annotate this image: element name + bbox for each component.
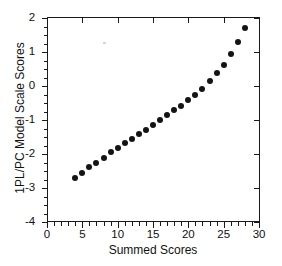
x-tick-minor [252,222,253,226]
x-tick-minor [75,222,76,226]
y-tick-minor [44,78,48,79]
y-tick-minor [44,27,48,28]
y-tick-right [254,52,259,53]
y-tick-major [42,222,48,223]
y-tick-minor [44,163,48,164]
y-tick-right [254,120,259,121]
x-tick-top [82,18,83,23]
x-tick-minor [146,222,147,226]
scan-artifact-speck [103,42,106,44]
y-tick-minor [44,103,48,104]
data-point [136,131,142,137]
data-point [108,149,114,155]
x-tick-minor [89,222,90,226]
y-tick-minor [44,35,48,36]
data-point [214,70,220,76]
y-tick-minor [44,171,48,172]
x-tick-minor [202,222,203,226]
y-tick-right [254,188,259,189]
x-tick-top [118,18,119,23]
x-tick-minor [174,222,175,226]
x-tick-label: 0 [27,228,67,241]
y-tick-right [254,154,259,155]
y-tick-minor [44,112,48,113]
y-tick-major [42,154,48,155]
data-point [101,155,107,161]
x-tick-minor [61,222,62,226]
y-tick-minor [44,95,48,96]
x-tick-minor [238,222,239,226]
x-tick-label: 30 [239,228,279,241]
y-tick-right [254,86,259,87]
y-tick-minor [44,180,48,181]
y-tick-minor [44,205,48,206]
y-tick-major [42,52,48,53]
x-axis-title: Summed Scores [47,243,259,257]
data-point [122,140,128,146]
x-tick-minor [54,222,55,226]
x-tick-minor [167,222,168,226]
x-tick-minor [245,222,246,226]
data-point [115,145,121,151]
y-tick-minor [44,137,48,138]
chart-figure: 051015202530 210-1-2-3-4 Summed Scores 1… [0,0,282,266]
x-tick-minor [139,222,140,226]
y-tick-minor [44,69,48,70]
data-point [129,136,135,142]
y-tick-major [42,188,48,189]
plot-area [47,18,259,222]
data-point [221,62,227,68]
x-tick-top [153,18,154,23]
y-tick-right [254,18,259,19]
x-tick-minor [217,222,218,226]
x-tick-label: 15 [133,228,173,241]
x-tick-top [224,18,225,23]
x-tick-minor [96,222,97,226]
x-tick-minor [210,222,211,226]
data-point [207,78,213,84]
y-tick-right [254,222,259,223]
y-tick-major [42,86,48,87]
x-tick-minor [195,222,196,226]
y-tick-minor [44,44,48,45]
y-tick-major [42,120,48,121]
x-tick-top [188,18,189,23]
y-tick-minor [44,129,48,130]
x-tick-top [259,18,260,23]
y-tick-minor [44,197,48,198]
x-tick-minor [132,222,133,226]
y-tick-minor [44,146,48,147]
x-tick-minor [111,222,112,226]
x-tick-minor [104,222,105,226]
x-tick-label: 25 [204,228,244,241]
x-tick-minor [68,222,69,226]
y-axis-title-wrapper: 1PL/PC Model Scale Scores [12,16,28,220]
x-tick-label: 10 [98,228,138,241]
x-tick-minor [181,222,182,226]
x-tick-minor [231,222,232,226]
x-tick-label: 20 [168,228,208,241]
x-tick-minor [160,222,161,226]
data-point [228,51,234,57]
y-tick-minor [44,214,48,215]
x-tick-label: 5 [62,228,102,241]
y-axis-title: 1PL/PC Model Scale Scores [12,16,28,220]
y-tick-major [42,18,48,19]
y-tick-minor [44,61,48,62]
x-tick-minor [125,222,126,226]
